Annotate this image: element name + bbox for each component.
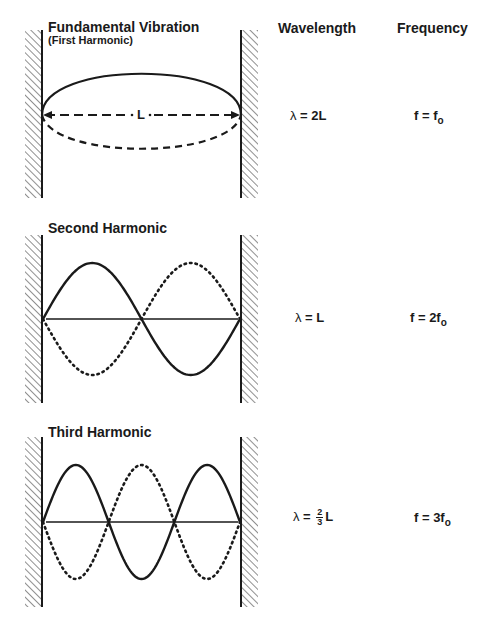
fraction: 23 bbox=[316, 508, 323, 527]
fundamental-subtitle: (First Harmonic) bbox=[48, 35, 133, 46]
arrowhead-right-icon bbox=[231, 111, 240, 119]
fundamental-frequency: f = fo bbox=[414, 108, 444, 123]
second-harmonic-title: Second Harmonic bbox=[48, 221, 167, 235]
second-harmonic-string bbox=[43, 263, 240, 375]
frequency-subscript: o bbox=[445, 517, 451, 528]
length-label: L bbox=[135, 107, 147, 122]
frequency-value: f = 3f bbox=[414, 510, 445, 525]
frequency-header: Frequency bbox=[397, 20, 468, 36]
third-harmonic-title: Third Harmonic bbox=[48, 425, 151, 439]
second-harmonic-wavelength: λ = L bbox=[295, 310, 324, 325]
wavelength-equals: = bbox=[300, 509, 315, 524]
fraction-denominator: 3 bbox=[317, 518, 322, 527]
frequency-value: f = 2f bbox=[410, 310, 441, 325]
third-harmonic-frequency: f = 3fo bbox=[414, 510, 451, 525]
frequency-value: f = f bbox=[414, 108, 437, 123]
third-harmonic-wavelength: λ = 23L bbox=[293, 505, 333, 529]
frequency-subscript: o bbox=[437, 115, 443, 126]
arrowhead-left-icon bbox=[43, 111, 52, 119]
wavelength-header: Wavelength bbox=[278, 20, 356, 36]
frequency-subscript: o bbox=[441, 317, 447, 328]
harmonics-diagram bbox=[0, 0, 479, 632]
fundamental-wavelength: λ = 2L bbox=[290, 108, 327, 123]
fundamental-title: Fundamental Vibration bbox=[48, 20, 199, 34]
third-harmonic-string bbox=[43, 465, 240, 579]
second-harmonic-frequency: f = 2fo bbox=[410, 310, 447, 325]
wavelength-value: = L bbox=[302, 310, 325, 325]
wavelength-value: = 2L bbox=[297, 108, 327, 123]
wavelength-unit: L bbox=[325, 509, 333, 524]
